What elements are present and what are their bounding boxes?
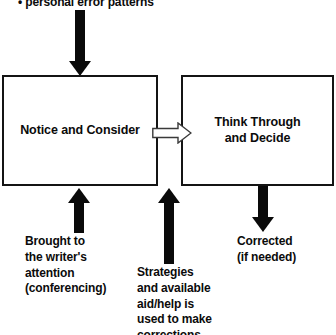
arrow-shaft bbox=[164, 201, 174, 264]
arrow-shaft bbox=[258, 186, 268, 219]
arrow-head bbox=[158, 188, 180, 203]
process-box-think-label: Think Through and Decide bbox=[214, 115, 300, 146]
arrow-corrected-output-down-icon bbox=[250, 186, 275, 232]
arrow-head bbox=[252, 217, 274, 232]
caption-strategies-and-aid: Strategies and available aid/help is use… bbox=[137, 265, 249, 335]
arrow-top-input-down-icon bbox=[67, 10, 92, 76]
process-box-think-through-and-decide[interactable]: Think Through and Decide bbox=[181, 75, 334, 186]
arrow-head bbox=[69, 61, 91, 76]
process-box-notice-and-consider[interactable]: Notice and Consider bbox=[2, 75, 158, 186]
caption-brought-to-writers-attention: Brought to the writer's attention (confe… bbox=[25, 234, 140, 297]
process-box-notice-label: Notice and Consider bbox=[20, 123, 140, 139]
arrow-strategies-input-up-icon bbox=[156, 188, 181, 264]
arrow-notice-to-think-right-icon bbox=[152, 122, 192, 144]
arrow-shaft bbox=[74, 201, 84, 233]
arrow-shaft bbox=[75, 10, 85, 63]
arrow-head bbox=[68, 188, 90, 203]
caption-corrected-if-needed: Corrected (if needed) bbox=[237, 234, 336, 266]
arrow-brought-input-up-icon bbox=[66, 188, 91, 233]
diagram-canvas: • personal error patterns Notice and Con… bbox=[0, 0, 336, 335]
top-note-text: • personal error patterns bbox=[18, 0, 154, 11]
